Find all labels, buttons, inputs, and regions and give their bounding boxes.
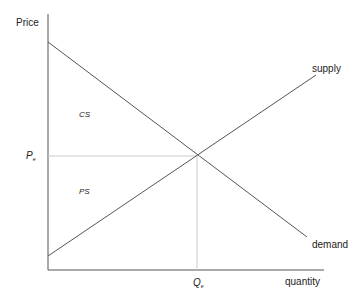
price-symbol: P [26,150,33,161]
quantity-symbol: Q [193,277,201,288]
demand-label: demand [312,239,348,250]
supply-curve [48,75,316,256]
demand-curve [48,42,307,237]
supply-label: supply [312,63,341,74]
quantity-subscript: e [201,283,204,289]
y-axis-label: Price [16,17,39,28]
consumer-surplus-label: CS [79,110,90,119]
x-axis-label: quantity [285,276,320,287]
price-subscript: e [33,156,36,162]
producer-surplus-label: PS [79,187,90,196]
diagram-canvas [0,0,364,300]
equilibrium-price-label: Pe [26,150,35,162]
equilibrium-quantity-label: Qe [193,277,204,289]
